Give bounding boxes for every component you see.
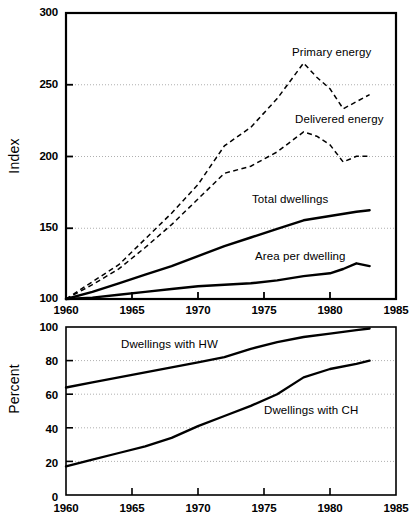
bottom-chart-frame — [66, 327, 396, 495]
series-dwellings-with-ch — [66, 361, 370, 467]
bottom-chart-plot — [0, 0, 419, 529]
series-dwellings-with-hw — [66, 329, 370, 388]
bottom-chart-y-ticks — [66, 361, 73, 462]
bottom-chart-x-ticks — [132, 488, 330, 495]
figure-container: Index 300 250 200 150 100 1960 1965 1970… — [0, 0, 419, 529]
bottom-chart-gridlines — [66, 361, 396, 462]
